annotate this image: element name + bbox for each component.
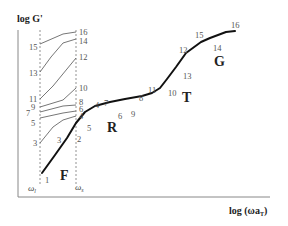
x-axis-label: log (ωaT) <box>229 205 267 217</box>
point-label: 2 <box>77 134 81 144</box>
region-label-t: T <box>182 90 192 105</box>
point-label: 5 <box>87 123 91 133</box>
point-label: 1 <box>45 175 49 185</box>
iso-curve-13-14 <box>40 39 76 72</box>
point-label: 13 <box>183 71 192 81</box>
point-label: 4 <box>79 111 84 121</box>
point-label: 7 <box>104 98 108 108</box>
point-label: 12 <box>79 52 88 62</box>
point-label: 15 <box>195 30 204 40</box>
point-label: 3 <box>33 138 37 148</box>
point-label: 14 <box>79 36 88 46</box>
region-label-f: F <box>60 168 69 183</box>
x-axis-label-close: ) <box>264 205 267 217</box>
iso-frequency-curves <box>40 32 76 143</box>
point-label: 6 <box>118 111 122 121</box>
omega-s-label: ωs <box>75 182 84 193</box>
omega-s-sub: s <box>81 187 84 193</box>
region-label-g: G <box>214 54 225 69</box>
point-labels: 1615141312111098765433215476981110131215… <box>26 20 240 185</box>
point-label: 14 <box>213 43 222 53</box>
rheology-diagram: log G' log (ωaT) ωl ωs 16151413121110987… <box>0 0 288 226</box>
region-labels: FRTG <box>60 54 225 183</box>
point-label: 15 <box>29 42 38 52</box>
point-label: 16 <box>231 20 240 30</box>
x-axis-label-main: log (ωa <box>229 205 260 217</box>
point-label: 5 <box>31 118 35 128</box>
diagram-canvas: log G' log (ωaT) ωl ωs 16151413121110987… <box>0 0 288 226</box>
iso-curve-7-8 <box>40 105 76 112</box>
point-label: 12 <box>179 45 188 55</box>
point-label: 10 <box>79 83 88 93</box>
omega-l-sub: l <box>34 188 36 194</box>
y-axis-label: log G' <box>17 13 43 24</box>
point-label: 9 <box>131 109 135 119</box>
iso-curve-5-6 <box>40 111 76 118</box>
iso-curve-15-16 <box>40 32 76 44</box>
point-label: 3 <box>57 135 61 145</box>
iso-curve-9-10 <box>40 88 76 107</box>
point-label: 7 <box>26 108 30 118</box>
point-label: 13 <box>29 68 38 78</box>
point-label: 11 <box>148 85 156 95</box>
point-label: 9 <box>31 102 35 112</box>
point-label: 10 <box>168 88 177 98</box>
region-label-r: R <box>107 120 118 135</box>
point-label: 8 <box>139 93 143 103</box>
omega-l-label: ωl <box>28 183 36 194</box>
